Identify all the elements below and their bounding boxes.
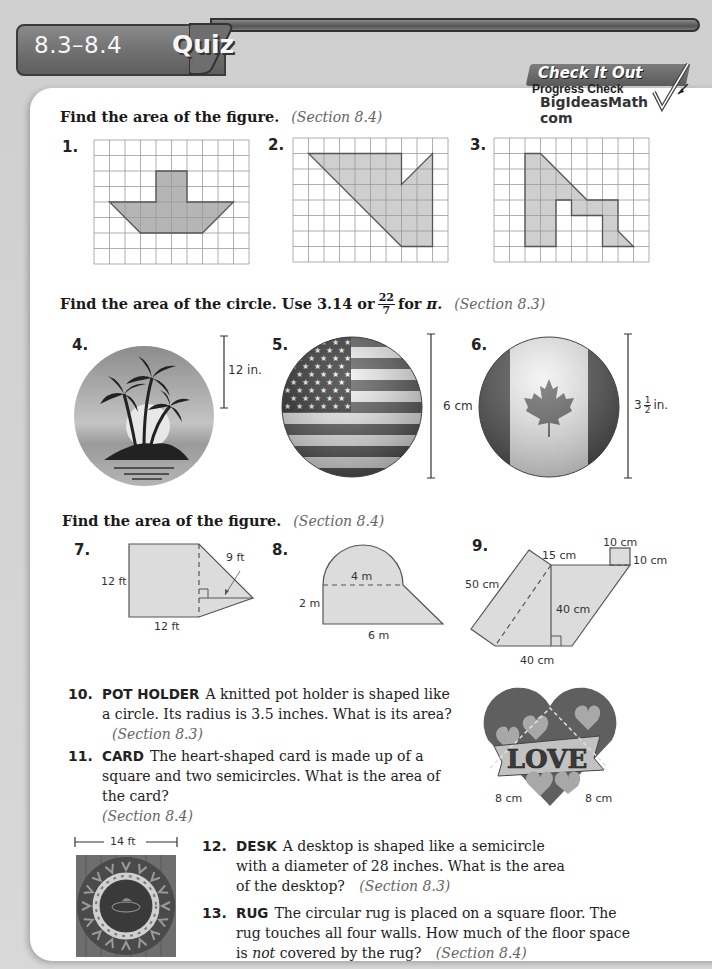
badge-title: Check It Out	[538, 64, 643, 82]
problem-number-1: 1.	[62, 138, 78, 156]
problem-keyword: RUG	[236, 905, 268, 921]
section-reference: (Section 8.4)	[291, 109, 382, 125]
checkmark-icon	[648, 62, 698, 112]
grid-figure-1	[94, 140, 250, 266]
problem-number: 10.	[68, 684, 93, 704]
heart-card-image: LOVE	[480, 688, 620, 808]
section-reference: (Section 8.4)	[293, 513, 384, 529]
section-reference: (Section 8.4)	[436, 945, 527, 961]
fraction-denominator: 2	[644, 406, 652, 415]
unit-label: in.	[653, 398, 668, 412]
dimension-label-left: 50 cm	[465, 578, 499, 591]
instruction-part1: Find the area of the figure.(Section 8.4…	[60, 108, 382, 125]
dimension-label-diameter: 4 m	[351, 570, 372, 583]
us-flag-button-image: ★★★★★★★★★★★★★★★★★★★★★★★★★★★★★★★★★★★★★★★★…	[281, 336, 423, 478]
pi-symbol: π.	[427, 295, 443, 312]
dimension-label-5: 6 cm	[443, 399, 473, 413]
mixed-number-whole: 3	[634, 398, 642, 412]
flag-star: ★	[284, 338, 291, 347]
grid-figure-2	[293, 138, 449, 264]
flag-star: ★	[308, 338, 315, 347]
problem-number-3: 3.	[470, 136, 486, 154]
heart-card-word: LOVE	[507, 744, 587, 774]
problem-number: 13.	[202, 903, 227, 923]
dimension-label-4: 12 in.	[228, 363, 262, 377]
instruction-text: Find the area of the figure.	[60, 108, 279, 125]
problem-10: 10. POT HOLDERA knitted pot holder is sh…	[102, 684, 462, 744]
rug-width-label: 14 ft	[110, 835, 136, 848]
diameter-dimension-line	[425, 333, 437, 479]
problem-number: 12.	[202, 836, 227, 856]
badge-site-suffix: com	[540, 110, 573, 126]
instruction-part2: Find the area of the circle. Use 3.14 or…	[60, 292, 545, 317]
problem-number-8: 8.	[272, 541, 288, 559]
palm-island-circle-image	[74, 336, 224, 486]
problem-number: 11.	[68, 746, 93, 766]
canada-flag-button-image	[478, 335, 620, 479]
section-reference: (Section 8.4)	[102, 808, 193, 824]
problem-keyword: CARD	[102, 748, 144, 764]
dimension-label-right-small: 10 cm	[633, 554, 667, 567]
dimension-label-slant-top: 15 cm	[542, 549, 576, 562]
dimension-label-bottom: 40 cm	[520, 654, 554, 667]
problem-keyword: DESK	[236, 838, 277, 854]
dimension-label-side: 12 ft	[101, 575, 127, 588]
heart-left-label: 8 cm	[495, 792, 522, 805]
flag-star: ★	[296, 338, 303, 347]
composite-figure-8	[322, 538, 448, 628]
problem-text: The heart-shaped card is made up of a sq…	[102, 748, 440, 804]
dimension-label-bottom: 6 m	[368, 629, 389, 642]
section-reference: (Section 8.3)	[359, 878, 450, 894]
badge-site-name: BigIdeasMath	[540, 94, 648, 110]
composite-figure-9	[470, 549, 640, 659]
header-bar	[210, 18, 700, 32]
problem-11: 11. CARDThe heart-shaped card is made up…	[102, 746, 447, 826]
section-reference: (Section 8.3)	[454, 296, 545, 312]
grid-figure-3	[494, 138, 650, 264]
check-it-out-badge[interactable]: Check It Out Progress Check BigIdeasMath…	[508, 62, 698, 112]
instruction-part3: Find the area of the figure.(Section 8.4…	[62, 512, 384, 529]
instruction-text-for: for	[398, 295, 422, 312]
problem-number-2: 2.	[268, 136, 284, 154]
instruction-text: Find the area of the circle. Use 3.14 or	[60, 295, 375, 312]
problem-number-7: 7.	[74, 541, 90, 559]
dimension-label-bottom: 12 ft	[154, 620, 180, 633]
dimension-label-height: 40 cm	[556, 603, 590, 616]
section-range: 8.3–8.4	[34, 32, 122, 58]
problem-12: 12. DESKA desktop is shaped like a semic…	[236, 836, 566, 896]
fraction-denominator: 7	[378, 305, 395, 317]
rug-on-floor-image	[76, 855, 176, 957]
dimension-label-6: 312in.	[634, 396, 668, 415]
page-title: Quiz	[172, 30, 234, 59]
heart-right-label: 8 cm	[585, 792, 612, 805]
instruction-text: Find the area of the figure.	[62, 512, 281, 529]
section-reference: (Section 8.3)	[112, 726, 203, 742]
pi-fraction: 227	[378, 292, 395, 317]
flag-star: ★	[284, 354, 291, 363]
dimension-label-height: 9 ft	[226, 551, 245, 564]
flag-star: ★	[290, 346, 297, 355]
problem-keyword: POT HOLDER	[102, 686, 199, 702]
problem-13: 13. RUGThe circular rug is placed on a s…	[236, 903, 636, 963]
dimension-label-top-small: 10 cm	[603, 536, 637, 549]
problem-text-emphasis: not	[252, 945, 275, 961]
diameter-dimension-line	[622, 333, 634, 479]
problem-text-end: covered by the rug?	[280, 945, 422, 961]
dimension-label-side: 2 m	[299, 597, 320, 610]
